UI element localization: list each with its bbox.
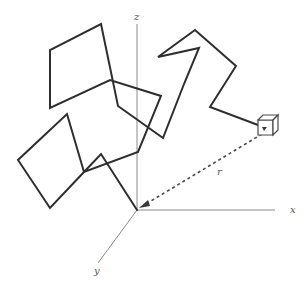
end-to-end-vector bbox=[146, 134, 262, 204]
y-axis-label: y bbox=[94, 266, 100, 276]
vector-arrowhead-icon bbox=[139, 200, 150, 208]
polymer-diagram bbox=[0, 0, 308, 297]
y-axis bbox=[98, 210, 137, 263]
polymer-chain bbox=[18, 24, 266, 210]
x-axis-label: x bbox=[290, 205, 296, 215]
cube-end-marker-icon bbox=[258, 115, 278, 135]
z-axis-label: z bbox=[134, 12, 139, 22]
vector-r-label: r bbox=[217, 167, 222, 177]
